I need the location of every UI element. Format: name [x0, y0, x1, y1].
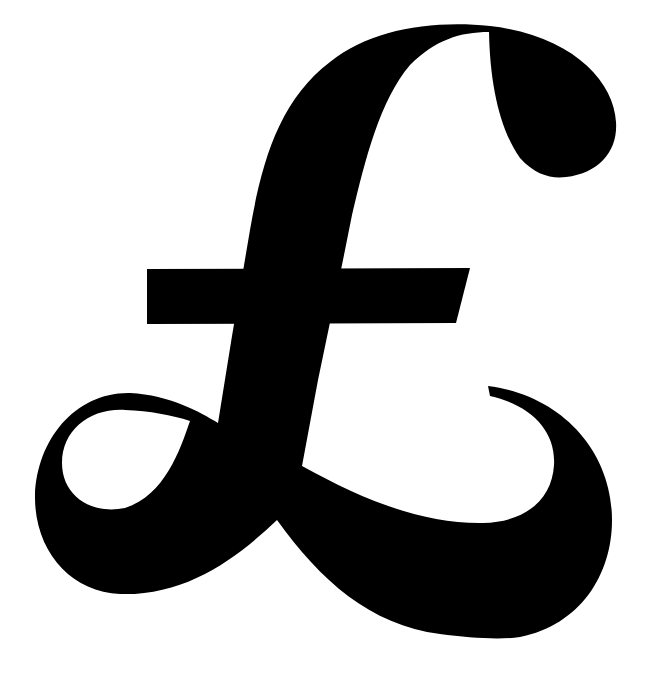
pound-crossbar: [147, 268, 470, 324]
pound-sterling-icon: [0, 0, 655, 678]
pound-sign-glyph: £: [0, 0, 655, 678]
